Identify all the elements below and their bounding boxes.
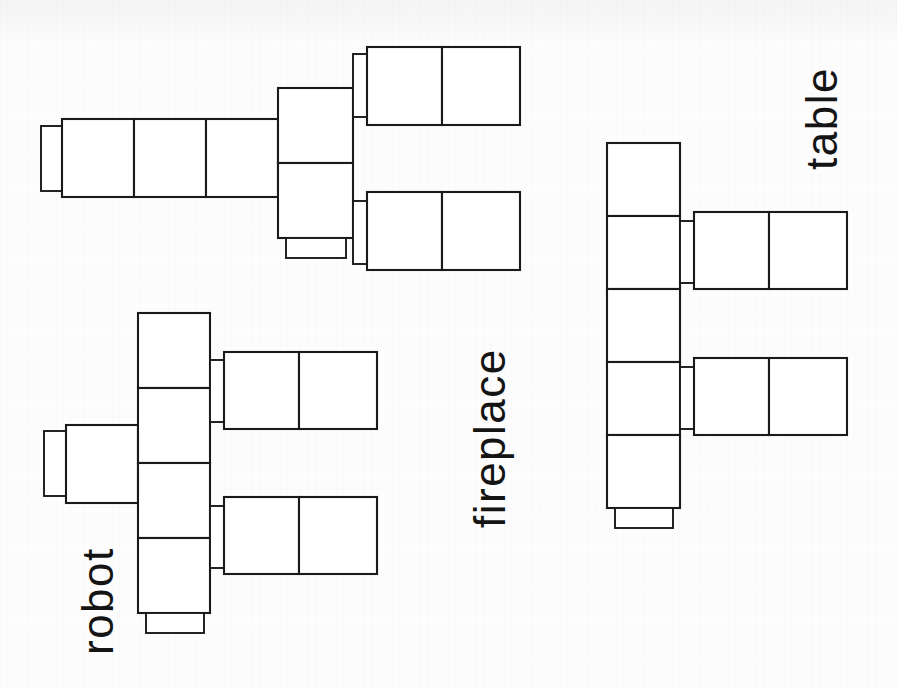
table-foot bbox=[615, 508, 673, 528]
fireplace-arm-upper-cell-1 bbox=[367, 47, 442, 125]
fireplace-foot bbox=[286, 238, 346, 258]
fireplace-spine-cell-2 bbox=[134, 119, 206, 197]
robot-stub bbox=[66, 425, 138, 503]
fireplace-label: fireplace bbox=[465, 348, 514, 528]
drawing-sheet: fireplace robot bbox=[0, 0, 897, 688]
table-arm-upper-cell-2 bbox=[769, 212, 847, 289]
robot-label: robot bbox=[73, 547, 122, 655]
table-spine-cell-2 bbox=[607, 216, 680, 289]
fireplace-body-cell-top bbox=[278, 88, 353, 163]
robot-arm-upper-cell-1 bbox=[224, 352, 299, 429]
fireplace-spine-cell-3 bbox=[206, 119, 278, 197]
robot-spine-cell-3 bbox=[138, 463, 210, 538]
robot-spine-cell-4 bbox=[138, 538, 210, 613]
table-arm-lower-cell-1 bbox=[694, 358, 769, 435]
table-label: table bbox=[797, 67, 846, 170]
fireplace-spine-cell-1 bbox=[62, 119, 134, 197]
table-arm-upper-cell-1 bbox=[694, 212, 769, 289]
table-arm-lower-cell-2 bbox=[769, 358, 847, 435]
line-drawing-canvas: fireplace robot bbox=[0, 0, 897, 688]
robot-arm-lower-cell-2 bbox=[299, 497, 377, 574]
fireplace-arm-lower-cell-2 bbox=[442, 192, 520, 270]
fireplace-body-cell-bottom bbox=[278, 163, 353, 238]
table-spine-cell-5 bbox=[607, 435, 680, 508]
robot-arm-upper-cell-2 bbox=[299, 352, 377, 429]
figure-table: table bbox=[607, 67, 847, 528]
fireplace-arm-upper-cell-2 bbox=[442, 47, 520, 125]
robot-spine-cell-1 bbox=[138, 313, 210, 388]
table-spine-cell-4 bbox=[607, 362, 680, 435]
table-spine-cell-3 bbox=[607, 289, 680, 362]
fireplace-end-cap bbox=[41, 126, 64, 191]
robot-spine-cell-2 bbox=[138, 388, 210, 463]
figure-robot: robot bbox=[44, 313, 377, 655]
robot-foot bbox=[146, 613, 204, 633]
robot-end-cap bbox=[44, 431, 66, 496]
robot-arm-lower-cell-1 bbox=[224, 497, 299, 574]
fireplace-arm-lower-cell-1 bbox=[367, 192, 442, 270]
table-spine-cell-1 bbox=[607, 143, 680, 216]
